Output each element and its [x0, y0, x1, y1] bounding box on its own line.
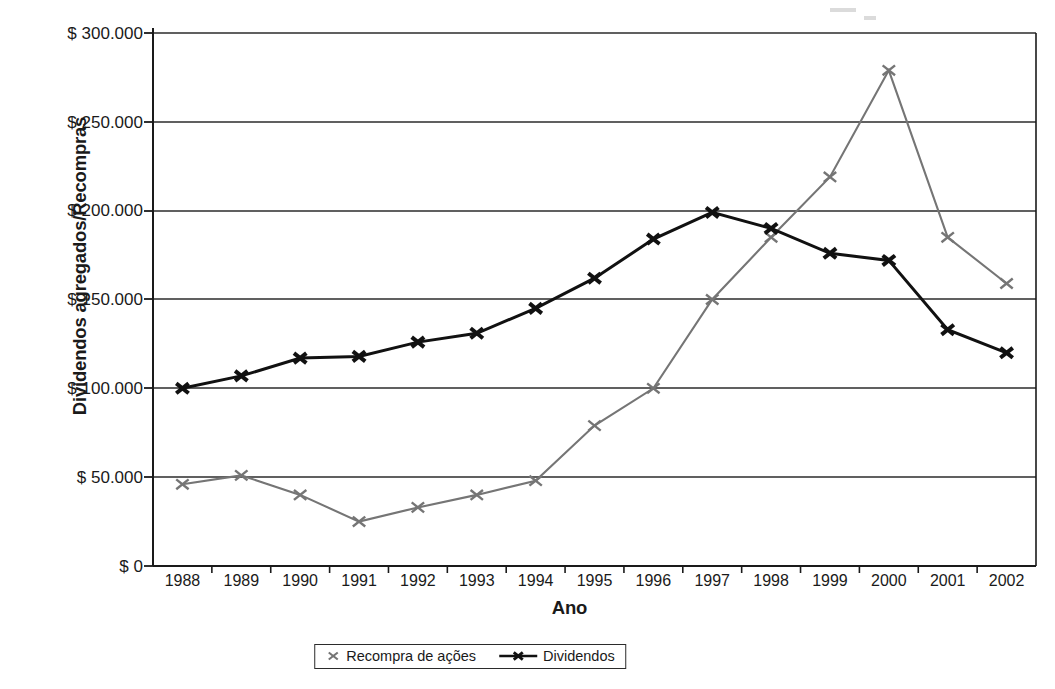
data-point-marker [1000, 348, 1012, 358]
data-point-marker [588, 421, 600, 431]
legend-label-dividendos: Dividendos [543, 648, 615, 664]
series-recompra-de-acoes [176, 65, 1013, 526]
x-tick-label: 1996 [623, 571, 683, 591]
x-marker-black-line-icon [498, 648, 538, 664]
axis-lines [153, 28, 1036, 566]
x-tick-label: 1999 [800, 571, 860, 591]
x-tick-label: 2002 [977, 571, 1037, 591]
x-tick-label: 1993 [447, 571, 507, 591]
x-axis-tick-labels: 1988198919901991199219931994199519961997… [0, 571, 1055, 597]
x-tick-label: 1994 [506, 571, 566, 591]
legend-item-dividendos: Dividendos [498, 648, 615, 664]
data-point-marker [588, 273, 600, 283]
x-tick-label: 1995 [565, 571, 625, 591]
data-point-marker [1000, 279, 1012, 289]
data-point-marker [883, 65, 895, 75]
data-point-marker [942, 325, 954, 335]
data-point-marker [529, 303, 541, 313]
x-tick-label: 1991 [329, 571, 389, 591]
x-tick-label: 1998 [741, 571, 801, 591]
chart-legend: Recompra de ações Dividendos [314, 644, 626, 669]
x-tick-label: 1992 [388, 571, 448, 591]
x-axis-title: Ano [0, 597, 1055, 619]
x-tick-label: 1989 [211, 571, 271, 591]
data-point-marker [942, 232, 954, 242]
gridlines [153, 33, 1036, 477]
x-tick-label: 2000 [859, 571, 919, 591]
legend-item-recompra: Recompra de ações [325, 648, 476, 664]
data-point-marker [294, 490, 306, 500]
x-marker-gray-icon [325, 648, 341, 664]
x-tick-label: 1988 [152, 571, 212, 591]
data-point-marker [824, 172, 836, 182]
y-axis-ticks [144, 33, 153, 566]
series-line [182, 70, 1006, 521]
data-point-marker [647, 234, 659, 244]
x-tick-label: 1997 [682, 571, 742, 591]
x-tick-label: 2001 [918, 571, 978, 591]
x-tick-label: 1990 [270, 571, 330, 591]
series-dividendos [176, 207, 1013, 393]
chart-figure: Dividendos agregados/Recompras $ 300.000… [0, 0, 1055, 689]
legend-label-recompra: Recompra de ações [346, 648, 476, 664]
x-axis-title-text: Ano [552, 597, 587, 618]
